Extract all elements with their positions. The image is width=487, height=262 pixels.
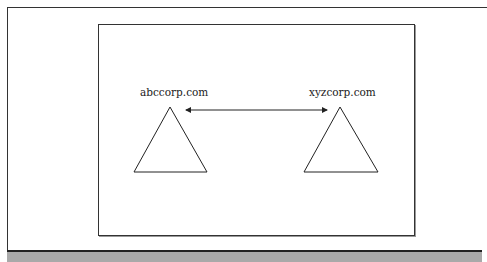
node-label-left: abccorp.com — [140, 86, 208, 98]
bottom-bar — [7, 250, 482, 262]
node-label-right: xyzcorp.com — [309, 86, 376, 98]
triangle-node-right — [304, 107, 378, 172]
triangle-node-left — [134, 107, 207, 172]
